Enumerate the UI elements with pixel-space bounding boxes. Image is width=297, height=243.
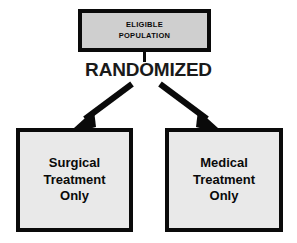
node-eligible-population[interactable]: ELIGIBLE POPULATION	[78, 9, 211, 52]
node-surgical-treatment-only-label: Surgical Treatment Only	[43, 155, 105, 205]
node-surgical-treatment-only[interactable]: Surgical Treatment Only	[16, 128, 133, 232]
node-eligible-population-label: ELIGIBLE POPULATION	[119, 20, 171, 42]
node-medical-treatment-only-line3: Only	[210, 188, 239, 203]
node-eligible-population-line2: POPULATION	[119, 31, 171, 40]
node-surgical-treatment-only-line3: Only	[60, 188, 89, 203]
arrow-randomized-to-medical-shaft	[160, 84, 207, 119]
node-medical-treatment-only[interactable]: Medical Treatment Only	[165, 128, 283, 232]
arrow-randomized-to-surgical-shaft	[85, 84, 132, 119]
node-medical-treatment-only-label: Medical Treatment Only	[193, 155, 255, 205]
node-eligible-population-line1: ELIGIBLE	[126, 20, 163, 29]
node-surgical-treatment-only-line1: Surgical	[49, 155, 100, 170]
node-surgical-treatment-only-line2: Treatment	[43, 172, 105, 187]
flowchart-canvas: ELIGIBLE POPULATION RANDOMIZED Surgical …	[0, 0, 297, 243]
node-medical-treatment-only-line2: Treatment	[193, 172, 255, 187]
node-medical-treatment-only-line1: Medical	[200, 155, 248, 170]
process-label-randomized: RANDOMIZED	[0, 59, 297, 81]
